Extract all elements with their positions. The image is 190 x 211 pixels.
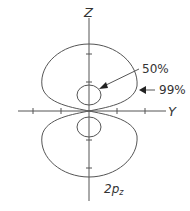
y-axis: [18, 108, 166, 114]
y-axis-label: Y: [168, 104, 177, 119]
arrow-99-percent-icon: [139, 86, 155, 94]
label-50-percent: 50%: [142, 62, 169, 76]
z-axis-label: Z: [83, 5, 94, 20]
z-axis: [86, 18, 92, 201]
orbital-label: 2pz: [104, 182, 124, 197]
arrow-50-percent-icon: [99, 69, 139, 89]
orbital-diagram: Z Y 50% 99% 2pz: [0, 0, 190, 211]
label-99-percent: 99%: [159, 83, 186, 97]
